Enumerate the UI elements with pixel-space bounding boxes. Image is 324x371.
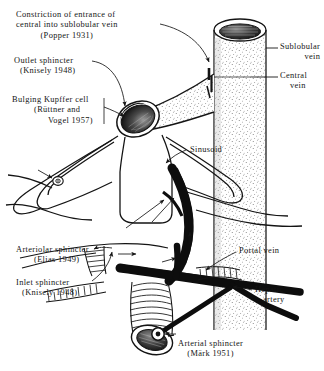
- label-kupffer-cell: Bulging Kupffer cell (Rüttner and Vogel …: [12, 95, 93, 126]
- label-inlet-sphincter-line1: Inlet sphincter: [16, 278, 69, 287]
- sinusoid-cell-detail: [53, 177, 63, 186]
- label-outlet-sphincter: Outlet sphincter (Knisely 1948): [14, 56, 75, 77]
- label-sublobular-vein-line2: vein: [280, 52, 320, 62]
- label-arteriolar-sphincter-line1: Arteriolar sphincter: [16, 245, 89, 254]
- label-sublobular-vein-line1: Sublobular: [280, 42, 320, 51]
- label-hepatic-artery-line1: Hepatic: [255, 285, 284, 294]
- label-portal-vein: Portal vein: [239, 246, 279, 256]
- label-inlet-sphincter: Inlet sphincter (Knisely 1948): [16, 278, 77, 299]
- label-central-vein-line2: vein: [280, 81, 306, 91]
- label-arteriolar-sphincter-line2: (Elias 1949): [16, 255, 79, 265]
- label-arterial-sphincter: Arterial sphincter (Märk 1951): [178, 339, 243, 360]
- label-portal-vein-line1: Portal vein: [239, 246, 279, 255]
- central-vein-mouth: [111, 94, 165, 144]
- label-constriction: Constriction of entrance of central into…: [16, 10, 118, 41]
- label-sinusoid: Sinusoid: [190, 145, 222, 155]
- label-hepatic-artery: Hepatic artery: [255, 285, 285, 306]
- label-kupffer-line1: Bulging Kupffer cell: [12, 95, 89, 104]
- label-arteriolar-sphincter: Arteriolar sphincter (Elias 1949): [16, 245, 89, 266]
- label-hepatic-artery-line2: artery: [255, 295, 285, 305]
- label-central-vein-line1: Central: [280, 71, 307, 80]
- label-constriction-line1: Constriction of entrance of: [16, 10, 115, 19]
- label-central-vein: Central vein: [280, 71, 307, 92]
- label-constriction-line2: central into sublobular vein: [16, 20, 118, 29]
- portal-venule-branches: [128, 282, 176, 359]
- label-sinusoid-line1: Sinusoid: [190, 145, 222, 154]
- label-inlet-sphincter-line2: (Knisely 1948): [16, 288, 77, 298]
- label-kupffer-line2: (Rüttner and: [12, 105, 80, 115]
- label-arterial-sphincter-line2: (Märk 1951): [178, 349, 243, 359]
- label-outlet-sphincter-line1: Outlet sphincter: [14, 56, 73, 65]
- label-outlet-sphincter-line2: (Knisely 1948): [14, 66, 75, 76]
- label-arterial-sphincter-line1: Arterial sphincter: [178, 339, 243, 348]
- label-constriction-line3: (Popper 1931): [16, 31, 118, 41]
- label-kupffer-line3: Vogel 1957): [12, 116, 93, 126]
- label-sublobular-vein: Sublobular vein: [280, 42, 320, 63]
